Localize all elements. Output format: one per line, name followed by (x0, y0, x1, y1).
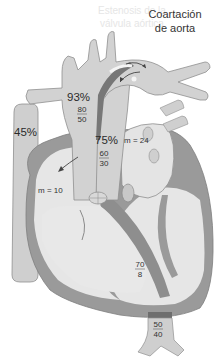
descending-aorta-diastolic-label: 40 (154, 330, 163, 339)
aorta-diastolic-label: 50 (78, 115, 87, 124)
svc-saturation-label: 45% (14, 126, 37, 138)
aorta-saturation-label: 93% (67, 91, 90, 103)
aorta-systolic-label: 80 (78, 105, 87, 114)
pa-systolic-label: 60 (100, 149, 109, 158)
lv-diastolic-label: 8 (138, 270, 143, 279)
heart-diagram: Estenosis de la válvula aórtica (0, 0, 222, 359)
descending-aorta-systolic-label: 50 (154, 320, 163, 329)
pa-saturation-label: 75% (95, 134, 118, 146)
la-mean-label: m = 24 (124, 136, 149, 145)
lv-systolic-label: 70 (136, 260, 145, 269)
title-line2: de aorta (155, 22, 196, 34)
ra-mean-label: m = 10 (38, 186, 63, 195)
title-line1: Coartación (148, 8, 201, 20)
pa-diastolic-label: 30 (100, 159, 109, 168)
